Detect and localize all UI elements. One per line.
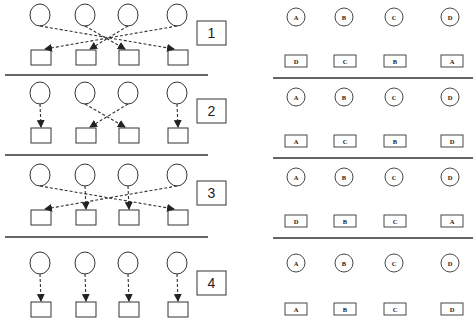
- left-row-1: 1: [30, 4, 226, 65]
- circle-letter: A: [294, 14, 299, 21]
- row-number-label: 1: [208, 25, 216, 41]
- circle-letter: B: [342, 94, 347, 101]
- box-letter: C: [393, 218, 398, 225]
- row-number-label: 4: [208, 275, 216, 291]
- source-circle: [118, 4, 138, 26]
- source-circle: [75, 164, 95, 186]
- circle-letter: A: [294, 174, 299, 181]
- row-number-label: 2: [208, 103, 216, 119]
- circle-letter: D: [448, 14, 453, 21]
- box-letter: C: [343, 58, 348, 65]
- mapping-arrow: [90, 26, 128, 49]
- mapping-arrow: [128, 274, 129, 301]
- target-box: [119, 210, 139, 225]
- mapping-arrow: [90, 104, 128, 127]
- source-circle: [167, 252, 187, 274]
- circle-letter: C: [392, 260, 397, 267]
- row-number-label: 3: [208, 185, 216, 201]
- source-circle: [118, 82, 138, 104]
- source-circle: [167, 164, 187, 186]
- source-circle: [30, 4, 50, 26]
- mapping-arrow: [40, 274, 41, 301]
- target-box: [168, 50, 188, 65]
- box-letter: D: [450, 306, 455, 313]
- box-letter: B: [393, 138, 398, 145]
- target-box: [31, 50, 51, 65]
- mapping-arrow: [85, 186, 86, 209]
- target-box: [31, 302, 51, 317]
- box-letter: D: [450, 138, 455, 145]
- source-circle: [167, 82, 187, 104]
- circle-letter: C: [392, 94, 397, 101]
- mapping-arrow: [85, 274, 86, 301]
- target-box: [168, 128, 188, 143]
- mapping-arrow: [177, 274, 178, 301]
- box-letter: B: [343, 218, 348, 225]
- mapping-arrow: [40, 104, 41, 127]
- target-box: [119, 50, 139, 65]
- box-letter: B: [393, 58, 398, 65]
- circle-letter: B: [342, 14, 347, 21]
- target-box: [76, 128, 96, 143]
- circle-letter: A: [294, 260, 299, 267]
- target-box: [31, 210, 51, 225]
- box-letter: B: [343, 306, 348, 313]
- circle-letter: C: [392, 14, 397, 21]
- box-letter: A: [450, 58, 455, 65]
- source-circle: [30, 164, 50, 186]
- box-letter: A: [294, 306, 299, 313]
- circle-letter: A: [294, 94, 299, 101]
- circle-letter: B: [342, 260, 347, 267]
- left-row-3: 3: [30, 164, 226, 225]
- right-row-3: ABCDDBCA: [285, 168, 463, 227]
- target-box: [76, 50, 96, 65]
- mapping-arrow: [45, 26, 177, 49]
- right-panel: ABCDDCBAABCDACBDABCDDBCAABCDABCD: [273, 8, 473, 315]
- target-box: [168, 302, 188, 317]
- source-circle: [30, 252, 50, 274]
- box-letter: C: [343, 138, 348, 145]
- circle-letter: D: [448, 174, 453, 181]
- target-box: [168, 210, 188, 225]
- box-letter: D: [294, 58, 299, 65]
- right-row-4: ABCDABCD: [285, 254, 463, 315]
- left-row-4: 4: [30, 252, 226, 317]
- target-box: [119, 128, 139, 143]
- box-letter: A: [294, 138, 299, 145]
- left-row-2: 2: [30, 82, 226, 143]
- circle-letter: B: [342, 174, 347, 181]
- target-box: [31, 128, 51, 143]
- source-circle: [167, 4, 187, 26]
- circle-letter: D: [448, 94, 453, 101]
- box-letter: D: [294, 218, 299, 225]
- circle-letter: D: [448, 260, 453, 267]
- right-row-1: ABCDDCBA: [285, 8, 463, 67]
- source-circle: [118, 164, 138, 186]
- source-circle: [30, 82, 50, 104]
- box-letter: C: [393, 306, 398, 313]
- mapping-arrow: [85, 104, 125, 127]
- left-panel: 1234: [5, 4, 226, 317]
- circle-letter: C: [392, 174, 397, 181]
- mapping-arrow: [40, 186, 174, 209]
- mapping-arrow: [45, 186, 177, 209]
- right-row-2: ABCDACBD: [285, 88, 463, 147]
- source-circle: [75, 82, 95, 104]
- mapping-arrow: [177, 104, 178, 127]
- diagram-canvas: 1234 ABCDDCBAABCDACBDABCDDBCAABCDABCD: [0, 0, 476, 329]
- mapping-arrow: [40, 26, 174, 49]
- source-circle: [75, 252, 95, 274]
- mapping-arrow: [128, 186, 129, 209]
- target-box: [76, 302, 96, 317]
- box-letter: A: [450, 218, 455, 225]
- source-circle: [118, 252, 138, 274]
- target-box: [76, 210, 96, 225]
- source-circle: [75, 4, 95, 26]
- target-box: [119, 302, 139, 317]
